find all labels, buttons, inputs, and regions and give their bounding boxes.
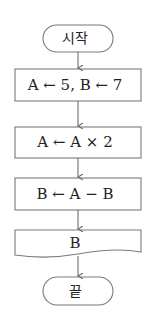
end-label: 끝 xyxy=(0,282,150,300)
flowchart-diagram xyxy=(0,0,150,318)
start-label: 시작 xyxy=(0,29,150,47)
output-label: B xyxy=(0,234,150,252)
step-1-label: A ← 5, B ← 7 xyxy=(0,76,150,94)
step-2-label: A ← A × 2 xyxy=(0,133,150,151)
step-3-label: B ← A − B xyxy=(0,185,150,203)
